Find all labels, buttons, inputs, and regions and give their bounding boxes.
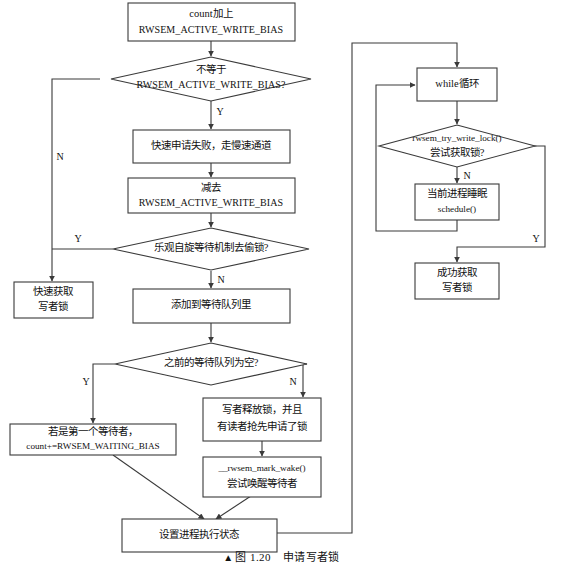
caption-triangle-icon: ▲	[223, 552, 233, 563]
node-sleep-schedule-line1: 当前进程睡眠	[427, 187, 488, 199]
caption-label: 图 1.20	[233, 551, 272, 563]
node-first-waiter-line2: count+=RWSEM_WAITING_BIAS	[26, 441, 159, 451]
node-mark-wake: __rwsem_mark_wake() 尝试唤醒等待者	[203, 457, 321, 497]
node-fast-acquire-write-lock: 快速获取 写者锁	[14, 282, 93, 318]
node-while-loop-line1: while循环	[435, 77, 478, 89]
node-decision-optimistic-spin: 乐观自旋等待机制去偷锁?	[113, 228, 309, 270]
connector-markwake-to-setstate	[216, 494, 254, 519]
node-fast-fail: 快速申请失败，走慢速通道	[133, 130, 290, 163]
node-start-count-add: count加上 RWSEM_ACTIVE_WRITE_BIAS	[128, 3, 295, 41]
node-subtract-bias: 减去 RWSEM_ACTIVE_WRITE_BIAS	[128, 178, 295, 213]
node-subtract-bias-line2: RWSEM_ACTIVE_WRITE_BIAS	[139, 197, 284, 208]
node-set-process-state-line1: 设置进程执行状态	[159, 528, 240, 540]
node-first-waiter: 若是第一个等待者， count+=RWSEM_WAITING_BIAS	[10, 424, 176, 455]
node-decision-not-equal-line1: 不等于	[196, 63, 226, 75]
node-decision-try-write-lock-line2: 尝试获取锁?	[430, 146, 485, 158]
node-while-loop: while循环	[417, 68, 497, 101]
connector-noteq-no	[52, 79, 100, 281]
branch-label-noteq-yes: Y	[216, 106, 223, 117]
node-success-acquire: 成功获取 写者锁	[415, 263, 499, 299]
branch-label-trylock-no: N	[463, 170, 470, 181]
branch-label-optimistic-yes: Y	[74, 233, 81, 244]
node-fast-acquire-line1: 快速获取	[33, 286, 74, 297]
node-writer-released-line1: 写者释放锁，并且	[222, 403, 302, 415]
connector-queueempty-yes	[93, 364, 115, 423]
node-first-waiter-line1: 若是第一个等待者，	[48, 425, 138, 437]
node-add-to-wait-queue: 添加到等待队列里	[133, 289, 290, 323]
node-decision-not-equal: 不等于 RWSEM_ACTIVE_WRITE_BIAS?	[111, 57, 311, 101]
connector-queueempty-no	[303, 364, 307, 397]
node-sleep-schedule-line2: schedule()	[438, 204, 476, 214]
node-decision-queue-empty-line1: 之前的等待队列为空?	[164, 356, 259, 368]
node-decision-not-equal-line2: RWSEM_ACTIVE_WRITE_BIAS?	[136, 79, 286, 90]
branch-label-optimistic-no: N	[217, 274, 224, 285]
node-sleep-schedule: 当前进程睡眠 schedule()	[415, 184, 499, 220]
branch-label-queueempty-yes: Y	[82, 376, 89, 387]
node-fast-fail-line1: 快速申请失败，走慢速通道	[151, 139, 272, 151]
node-mark-wake-line2: 尝试唤醒等待者	[227, 477, 297, 489]
node-success-acquire-line1: 成功获取	[437, 267, 478, 278]
node-decision-try-write-lock: rwsem_try_write_lock() 尝试获取锁?	[379, 125, 535, 167]
node-start-count-add-line1: count加上	[189, 8, 232, 19]
node-add-to-wait-queue-line1: 添加到等待队列里	[171, 298, 251, 310]
flowchart-canvas: count加上 RWSEM_ACTIVE_WRITE_BIAS 不等于 RWSE…	[0, 0, 563, 578]
flowchart-figure: count加上 RWSEM_ACTIVE_WRITE_BIAS 不等于 RWSE…	[0, 0, 563, 578]
branch-label-queueempty-no: N	[289, 376, 296, 387]
node-subtract-bias-line1: 减去	[201, 182, 221, 193]
caption-title: 申请写者锁	[273, 551, 340, 563]
node-decision-queue-empty: 之前的等待队列为空?	[115, 343, 307, 385]
connector-firstwaiter-to-setstate	[113, 455, 204, 519]
node-mark-wake-line1: __rwsem_mark_wake()	[217, 463, 305, 473]
node-writer-released-line2: 有读者抢先申请了锁	[217, 420, 308, 432]
node-start-count-add-line2: RWSEM_ACTIVE_WRITE_BIAS	[139, 24, 284, 35]
node-fast-acquire-line2: 写者锁	[38, 300, 69, 312]
node-writer-released: 写者释放锁，并且 有读者抢先申请了锁	[203, 398, 321, 441]
branch-label-trylock-yes: Y	[532, 233, 539, 244]
node-decision-try-write-lock-line1: rwsem_try_write_lock()	[412, 133, 501, 143]
branch-label-noteq-no: N	[56, 151, 63, 162]
figure-caption: ▲图 1.20申请写者锁	[0, 548, 563, 564]
node-success-acquire-line2: 写者锁	[442, 281, 473, 293]
node-decision-optimistic-spin-line1: 乐观自旋等待机制去偷锁?	[154, 241, 269, 253]
